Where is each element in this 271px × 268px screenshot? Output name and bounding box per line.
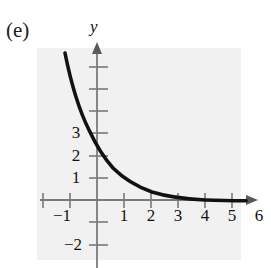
graph-canvas (0, 0, 271, 268)
x-tick-label-5: 5 (224, 206, 240, 226)
y-tick-label-1: 1 (68, 168, 84, 188)
x-tick-label-6: 6 (251, 206, 267, 226)
y-tick-label--2: −2 (58, 235, 88, 255)
y-tick-label-2: 2 (68, 146, 84, 166)
x-tick-label-4: 4 (197, 206, 213, 226)
exponential-decay-figure: (e) y (0, 0, 271, 268)
x-tick-label--1: −1 (47, 206, 77, 226)
y-tick-label-3: 3 (68, 123, 84, 143)
x-tick-label-1: 1 (116, 206, 132, 226)
y-axis (92, 42, 102, 268)
x-tick-label-2: 2 (143, 206, 159, 226)
x-tick-label-3: 3 (170, 206, 186, 226)
